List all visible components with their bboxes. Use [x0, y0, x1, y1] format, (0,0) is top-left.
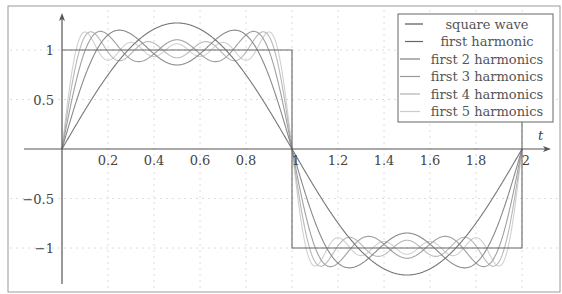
x-tick-label: 1.4 [374, 153, 395, 168]
y-tick-label: −1 [35, 241, 54, 256]
x-tick-label: 0.2 [98, 153, 119, 168]
legend-label: first 4 harmonics [431, 87, 543, 102]
x-tick-label: 1.8 [466, 153, 487, 168]
x-tick-label: 0.8 [236, 153, 257, 168]
x-tick-label: 0.4 [144, 153, 165, 168]
legend-label: first harmonic [440, 34, 533, 49]
y-tick-label: 1 [46, 43, 54, 58]
x-tick-label: 0.6 [190, 153, 211, 168]
legend-label: square wave [445, 17, 528, 32]
x-tick-label: 1.6 [420, 153, 441, 168]
x-tick-label: 1.2 [328, 153, 349, 168]
legend-label: first 5 harmonics [431, 104, 543, 119]
fourier-chart: t 0.20.40.60.811.21.41.61.82−1−0.50.51 s… [0, 0, 562, 294]
x-axis-label: t [538, 128, 544, 143]
y-tick-label: −0.5 [22, 192, 54, 207]
y-tick-label: 0.5 [33, 93, 54, 108]
legend-label: first 3 harmonics [431, 69, 543, 84]
x-tick-label: 1 [292, 153, 300, 168]
legend: square wavefirst harmonicfirst 2 harmoni… [398, 14, 553, 122]
legend-label: first 2 harmonics [431, 52, 543, 67]
x-tick-label: 2 [522, 153, 530, 168]
